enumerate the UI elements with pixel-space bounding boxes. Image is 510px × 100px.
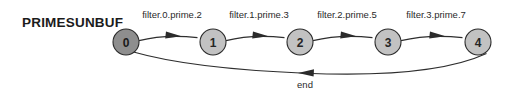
node-label: 1: [210, 36, 217, 50]
node-3[interactable]: 3: [375, 29, 401, 55]
arrowhead-icon: [252, 32, 268, 39]
diagram-canvas: PRIMESUNBUF filter.0.prime.2 filter.1.pr…: [0, 0, 510, 100]
arrowhead-icon: [429, 32, 445, 39]
edge-label: filter.2.prime.5: [317, 9, 377, 20]
node-2[interactable]: 2: [287, 29, 313, 55]
arrowhead-icon: [340, 32, 356, 39]
node-0[interactable]: 0: [113, 29, 139, 55]
arrowhead-icon: [165, 32, 181, 39]
edge-2-to-3: filter.2.prime.5: [313, 9, 377, 41]
edge-1-to-2: filter.1.prime.3: [226, 9, 289, 41]
edge-0-to-1: filter.0.prime.2: [139, 9, 202, 41]
node-label: 2: [297, 36, 304, 50]
edge-3-to-4: filter.3.prime.7: [401, 9, 466, 41]
node-4[interactable]: 4: [465, 29, 491, 55]
edge-label: end: [297, 79, 313, 90]
edge-label: filter.1.prime.3: [229, 9, 289, 20]
edge-4-to-0-end: end: [134, 52, 487, 90]
page-title: PRIMESUNBUF: [22, 15, 123, 30]
node-label: 4: [475, 36, 482, 50]
edge-label: filter.0.prime.2: [142, 9, 202, 20]
node-1[interactable]: 1: [200, 29, 226, 55]
edge-label: filter.3.prime.7: [406, 9, 466, 20]
graph-diagram: PRIMESUNBUF filter.0.prime.2 filter.1.pr…: [0, 0, 510, 100]
arrowhead-icon: [298, 69, 314, 76]
node-label: 0: [123, 36, 130, 50]
node-label: 3: [385, 36, 392, 50]
